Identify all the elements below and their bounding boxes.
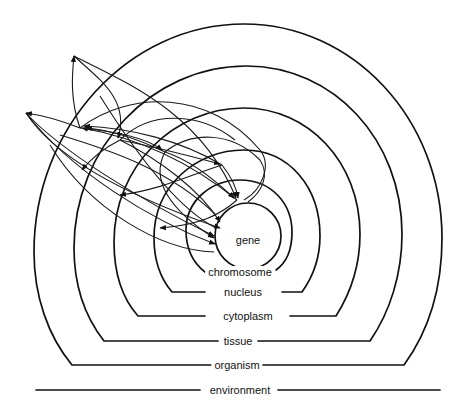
cytoplasm-label: cytoplasm [220,310,276,322]
chromosome-arc [186,180,292,272]
interaction-arrows [26,56,265,252]
organism-label: organism [211,359,262,371]
cytoplasm-arc [114,108,360,316]
chromosome-label: chromosome [205,266,275,278]
gene-label: gene [233,234,263,246]
nucleus-label: nucleus [221,286,265,298]
nested-levels-diagram [0,0,464,414]
environment-label: environment [207,384,274,396]
tissue-label: tissue [221,335,256,347]
